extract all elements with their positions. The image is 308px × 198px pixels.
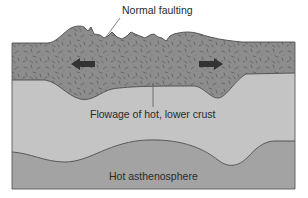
normal-faulting-label: Normal faulting — [122, 5, 193, 16]
flowage-label: Flowage of hot, lower crust — [90, 109, 215, 120]
rift-diagram: Normal faulting Flowage of hot, lower cr… — [0, 0, 308, 198]
rift-diagram-svg — [0, 0, 308, 198]
asthenosphere-label: Hot asthenosphere — [109, 171, 198, 182]
